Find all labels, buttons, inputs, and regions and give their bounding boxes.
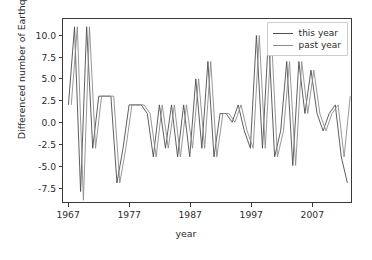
plot-axes: this year past year [62, 18, 352, 203]
legend-swatch-past-year [273, 45, 293, 46]
legend-item-past-year: past year [273, 39, 341, 51]
x-tick-mark [129, 203, 130, 207]
x-tick-mark [251, 203, 252, 207]
x-tick-mark [312, 203, 313, 207]
x-tick-label: 2007 [282, 209, 342, 220]
x-tick-mark [190, 203, 191, 207]
legend-label-past-year: past year [299, 40, 341, 50]
x-tick-mark [68, 203, 69, 207]
x-tick-label: 1997 [221, 209, 281, 220]
legend-label-this-year: this year [299, 28, 338, 38]
chart-legend: this year past year [267, 22, 348, 56]
x-tick-label: 1967 [38, 209, 98, 220]
y-tick-label: -7.5 [10, 183, 56, 194]
legend-item-this-year: this year [273, 27, 341, 39]
x-tick-label: 1987 [160, 209, 220, 220]
earthquake-difference-chart: this year past year -7.5-5.0-2.50.02.55.… [0, 0, 372, 260]
x-axis-label: year [0, 228, 372, 239]
legend-swatch-this-year [273, 33, 293, 34]
y-tick-label: -5.0 [10, 161, 56, 172]
x-tick-label: 1977 [99, 209, 159, 220]
y-axis-label: Differenced number of Earthquakes [16, 0, 27, 151]
